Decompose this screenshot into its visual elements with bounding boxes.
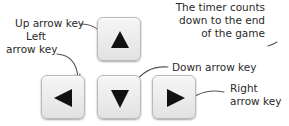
left-arrow-key[interactable] bbox=[41, 75, 85, 119]
triangle-down-icon bbox=[98, 76, 142, 120]
triangle-up-icon bbox=[98, 18, 142, 62]
timer-note-line3: of the game bbox=[170, 27, 265, 40]
timer-note-line2: down to the end bbox=[170, 14, 265, 27]
timer-note-line1: The timer counts bbox=[170, 1, 265, 14]
right-arrow-label-line2: arrow key bbox=[230, 95, 281, 108]
triangle-right-icon bbox=[153, 76, 197, 120]
timer-note: The timer counts down to the end of the … bbox=[170, 1, 265, 40]
down-arrow-key[interactable] bbox=[97, 75, 141, 119]
up-arrow-label: Up arrow key bbox=[15, 17, 84, 30]
left-arrow-label: Left arrow key bbox=[6, 30, 56, 56]
left-arrow-label-line1: Left bbox=[6, 30, 56, 43]
up-arrow-key[interactable] bbox=[97, 17, 141, 61]
down-arrow-label: Down arrow key bbox=[172, 61, 256, 74]
right-arrow-key[interactable] bbox=[152, 75, 196, 119]
right-arrow-label: Right arrow key bbox=[230, 82, 281, 108]
triangle-left-icon bbox=[42, 76, 86, 120]
right-arrow-label-line1: Right bbox=[230, 82, 281, 95]
left-arrow-label-line2: arrow key bbox=[6, 43, 56, 56]
